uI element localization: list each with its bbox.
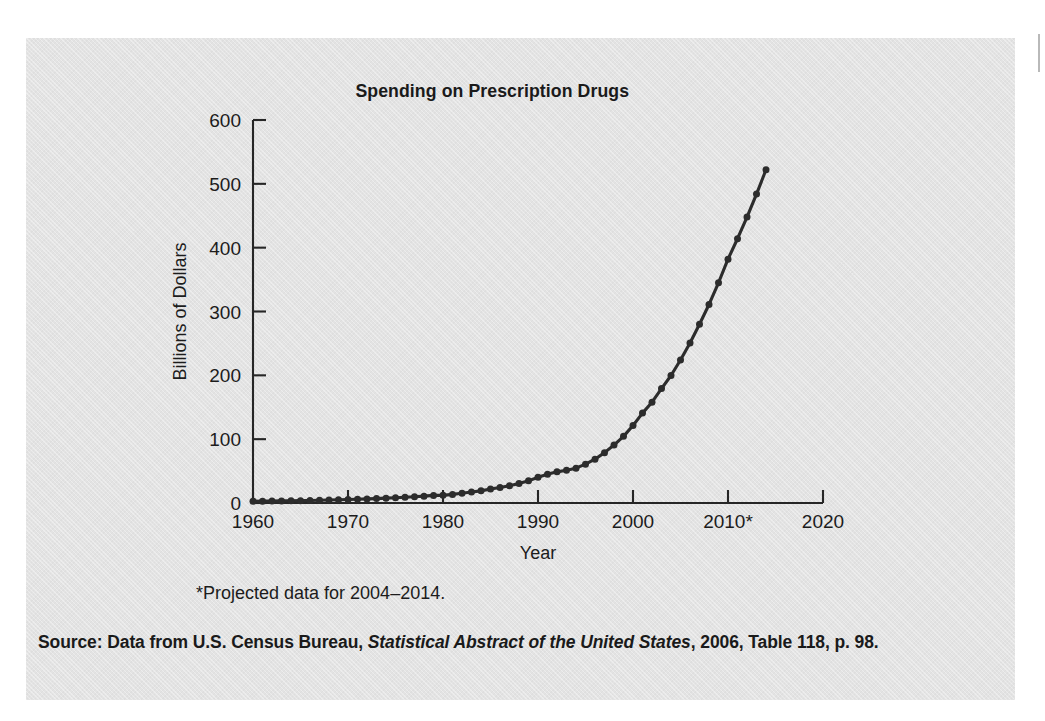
footnote-projected-data: *Projected data for 2004–2014. — [196, 583, 445, 604]
series-data-point — [554, 468, 561, 475]
y-axis-tick-label: 400 — [209, 238, 241, 259]
y-axis-tick-label: 600 — [209, 110, 241, 131]
x-axis-tick-label: 1980 — [422, 511, 464, 532]
series-data-point — [326, 497, 333, 504]
series-data-point — [430, 492, 437, 499]
series-data-point — [392, 494, 399, 501]
series-data-point — [383, 495, 390, 502]
x-axis-tick-label: 2020 — [802, 511, 844, 532]
line-chart-plot: 0100200300400500600196019701980199020002… — [0, 0, 1045, 721]
series-data-point — [516, 480, 523, 487]
series-data-point — [373, 495, 380, 502]
series-data-point — [525, 477, 532, 484]
series-data-point — [706, 301, 713, 308]
x-axis-tick-label: 1970 — [327, 511, 369, 532]
series-data-point — [478, 487, 485, 494]
series-data-point — [544, 471, 551, 478]
series-data-point — [611, 442, 618, 449]
series-data-point — [592, 456, 599, 463]
series-data-point — [535, 474, 542, 481]
series-data-point — [658, 385, 665, 392]
series-data-point — [582, 461, 589, 468]
source-citation: Source: Data from U.S. Census Bureau, St… — [38, 632, 879, 653]
series-data-point — [316, 497, 323, 504]
y-axis-tick-label: 500 — [209, 174, 241, 195]
series-data-point — [297, 497, 304, 504]
series-data-point — [696, 321, 703, 328]
series-data-point — [487, 486, 494, 493]
series-data-point — [278, 497, 285, 504]
y-axis-title: Billions of Dollars — [170, 242, 190, 380]
series-data-point — [725, 256, 732, 263]
series-data-point — [573, 465, 580, 472]
series-data-point — [744, 214, 751, 221]
series-data-point — [411, 493, 418, 500]
x-axis-tick-label: 2000 — [612, 511, 654, 532]
series-data-point — [440, 492, 447, 499]
series-data-point — [402, 494, 409, 501]
y-axis-tick-label: 200 — [209, 365, 241, 386]
series-data-point — [753, 191, 760, 198]
series-data-point — [288, 497, 295, 504]
x-axis-tick-label: 2010* — [703, 511, 753, 532]
series-data-point — [601, 449, 608, 456]
x-axis-title: Year — [520, 543, 556, 563]
series-data-point — [468, 489, 475, 496]
y-axis-tick-label: 300 — [209, 302, 241, 323]
series-data-point — [259, 498, 266, 505]
series-data-point — [497, 484, 504, 491]
series-data-point — [250, 498, 257, 505]
series-data-point — [364, 495, 371, 502]
series-data-point — [677, 357, 684, 364]
series-data-point — [506, 482, 513, 489]
series-data-point — [763, 166, 770, 173]
x-axis-tick-label: 1990 — [517, 511, 559, 532]
y-axis-tick-label: 100 — [209, 429, 241, 450]
series-data-point — [668, 372, 675, 379]
series-data-point — [335, 496, 342, 503]
series-data-point — [649, 399, 656, 406]
source-prefix: Source: Data from U.S. Census Bureau, — [38, 632, 368, 652]
chart-axes — [253, 120, 823, 503]
series-line-spending — [253, 170, 766, 501]
source-publication-title: Statistical Abstract of the United State… — [368, 632, 691, 652]
series-data-point — [620, 433, 627, 440]
series-data-point — [639, 410, 646, 417]
series-data-point — [269, 498, 276, 505]
series-data-point — [715, 279, 722, 286]
series-data-point — [630, 422, 637, 429]
series-data-point — [421, 493, 428, 500]
series-data-point — [307, 497, 314, 504]
series-data-point — [449, 491, 456, 498]
series-data-point — [563, 467, 570, 474]
series-data-point — [345, 496, 352, 503]
series-data-point — [687, 340, 694, 347]
series-data-point — [354, 496, 361, 503]
x-axis-tick-label: 1960 — [232, 511, 274, 532]
series-data-point — [734, 235, 741, 242]
source-suffix: , 2006, Table 118, p. 98. — [691, 632, 879, 652]
figure-page: Spending on Prescription Drugs 010020030… — [0, 0, 1045, 721]
series-data-point — [459, 490, 466, 497]
